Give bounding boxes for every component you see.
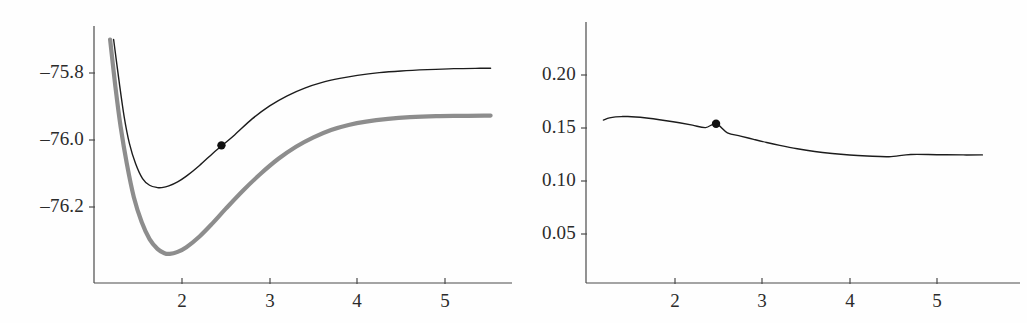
y-tick-label-2: –76.2 bbox=[40, 195, 84, 217]
y-tick-label-1: 0.15 bbox=[542, 116, 576, 138]
x-tick-label-0: 2 bbox=[655, 290, 695, 312]
x-tick-label-3: 5 bbox=[917, 290, 957, 312]
right-axes bbox=[581, 22, 1020, 284]
x-tick-label-0: 2 bbox=[162, 290, 202, 312]
y-tick-label-0: 0.20 bbox=[542, 63, 576, 85]
x-tick-label-3: 5 bbox=[425, 290, 465, 312]
left-plot-canvas bbox=[0, 0, 520, 323]
left-upper-curve-black bbox=[114, 40, 491, 188]
x-tick-label-2: 4 bbox=[830, 290, 870, 312]
left-markers bbox=[217, 141, 225, 149]
right-series-group bbox=[603, 117, 982, 157]
x-tick-label-1: 3 bbox=[250, 290, 290, 312]
x-tick-label-2: 4 bbox=[337, 290, 377, 312]
y-tick-label-3: 0.05 bbox=[542, 222, 576, 244]
right-dipole-curve bbox=[603, 117, 982, 157]
y-tick-label-0: –75.8 bbox=[40, 61, 84, 83]
y-tick-label-2: 0.10 bbox=[542, 169, 576, 191]
chart-panel-right: 0.200.150.100.052345 bbox=[520, 0, 1027, 323]
left-lower-curve-gray bbox=[110, 40, 490, 255]
chart-panel-left: –75.8–76.0–76.22345 bbox=[0, 0, 520, 323]
equilibrium-point-marker bbox=[712, 120, 720, 128]
left-series-group bbox=[110, 40, 490, 255]
right-plot-canvas bbox=[520, 0, 1027, 323]
y-tick-label-1: –76.0 bbox=[40, 128, 84, 150]
equilibrium-point-marker bbox=[217, 141, 225, 149]
x-tick-label-1: 3 bbox=[742, 290, 782, 312]
figure-container: –75.8–76.0–76.22345 0.200.150.100.052345 bbox=[0, 0, 1027, 323]
right-markers bbox=[712, 120, 720, 128]
